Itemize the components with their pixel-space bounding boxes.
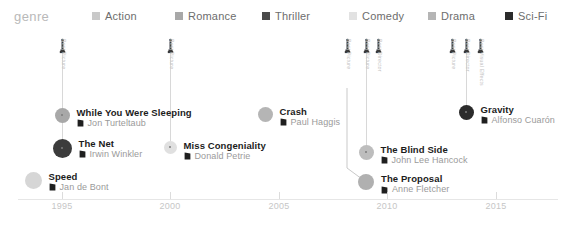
legend-item-action[interactable]: Action (92, 10, 137, 22)
film-director-row: Jon Turteltaub (77, 118, 192, 129)
legend-title: genre (14, 9, 49, 24)
award-label: Best Picture (61, 39, 67, 69)
film-entry[interactable]: Miss CongenialityDonald Petrie (164, 141, 266, 162)
movie-timeline-chart: genre ActionRomanceThrillerComedyDramaSc… (0, 0, 572, 226)
award-marker[interactable]: Best Director (375, 38, 382, 54)
award-marker[interactable]: Best Picture (363, 38, 370, 54)
award-marker[interactable]: Best Picture (59, 38, 66, 54)
film-text-block: GravityAlfonso Cuarón (481, 104, 555, 126)
legend-item-label: Thriller (275, 10, 310, 22)
film-director-name: Jon Turteltaub (88, 118, 146, 129)
award-marker[interactable]: Best Director (463, 38, 470, 54)
legend-item-label: Romance (188, 10, 236, 22)
director-chair-icon (77, 119, 84, 127)
film-director-row: Paul Haggis (280, 117, 341, 128)
film-text-block: Miss CongenialityDonald Petrie (184, 140, 266, 162)
film-director-row: John Lee Hancock (381, 155, 468, 166)
film-genre-dot[interactable] (25, 172, 42, 189)
film-entry[interactable]: The ProposalAnne Fletcher (358, 174, 449, 195)
film-director-name: Alfonso Cuarón (492, 115, 555, 126)
film-entry[interactable]: SpeedJan de Bont (25, 172, 109, 193)
film-entry[interactable]: GravityAlfonso Cuarón (459, 105, 555, 126)
film-director-name: John Lee Hancock (392, 155, 468, 166)
film-director-name: Donald Petrie (195, 151, 251, 162)
legend-item-label: Comedy (362, 10, 404, 22)
award-marker[interactable]: Best Picture (344, 38, 351, 54)
film-entry[interactable]: While You Were SleepingJon Turteltaub (55, 108, 192, 129)
director-chair-icon (79, 150, 86, 158)
film-director-row: Irwin Winkler (79, 149, 143, 160)
legend-swatch-icon (428, 12, 436, 20)
axis-tick-label: 2015 (485, 201, 506, 211)
dot-center-marker (61, 114, 63, 116)
film-director-row: Alfonso Cuarón (481, 115, 555, 126)
award-label: Best Director (377, 39, 383, 72)
film-director-name: Paul Haggis (291, 117, 341, 128)
film-genre-dot[interactable] (459, 105, 474, 120)
legend-item-thriller[interactable]: Thriller (262, 10, 310, 22)
award-label: Best Picture (169, 39, 175, 69)
legend-item-drama[interactable]: Drama (428, 10, 475, 22)
axis-tick-label: 2010 (376, 201, 397, 211)
film-title: The Net (79, 138, 143, 149)
film-director-row: Jan de Bont (49, 182, 109, 193)
film-title: The Blind Side (381, 144, 468, 155)
film-genre-dot[interactable] (164, 141, 177, 154)
film-text-block: The Blind SideJohn Lee Hancock (381, 144, 468, 166)
film-text-block: CrashPaul Haggis (280, 106, 341, 128)
film-director-row: Donald Petrie (184, 151, 266, 162)
axis-tick-label: 2000 (159, 201, 180, 211)
legend-item-romance[interactable]: Romance (175, 10, 236, 22)
film-entry[interactable]: The Blind SideJohn Lee Hancock (359, 145, 468, 166)
axis-tick-mark (279, 192, 280, 199)
legend-swatch-icon (505, 12, 513, 20)
film-director-name: Anne Fletcher (392, 184, 449, 195)
film-entry[interactable]: The NetIrwin Winkler (53, 139, 143, 160)
film-title: Gravity (481, 104, 555, 115)
film-text-block: SpeedJan de Bont (49, 171, 109, 193)
film-text-block: The ProposalAnne Fletcher (381, 173, 449, 195)
legend-swatch-icon (349, 12, 357, 20)
legend-item-label: Sci-Fi (518, 10, 547, 22)
award-label: Best Picture (346, 39, 352, 69)
award-marker[interactable]: Best Picture (449, 38, 456, 54)
director-chair-icon (481, 116, 488, 124)
film-genre-dot[interactable] (358, 174, 374, 190)
axis-tick-mark (170, 192, 171, 199)
axis-tick-mark (387, 192, 388, 199)
film-genre-dot[interactable] (53, 139, 72, 158)
award-marker[interactable]: Best Visual Effects (477, 38, 484, 54)
director-chair-icon (49, 183, 56, 191)
film-genre-dot[interactable] (55, 108, 70, 123)
axis-tick-mark (496, 192, 497, 199)
legend-item-label: Action (105, 10, 137, 22)
award-label: Best Visual Effects (479, 39, 485, 86)
dot-center-marker (365, 151, 367, 153)
film-director-name: Irwin Winkler (90, 149, 143, 160)
legend-item-label: Drama (441, 10, 475, 22)
film-title: The Proposal (381, 173, 449, 184)
axis-tick-label: 2005 (268, 201, 289, 211)
film-title: Speed (49, 171, 109, 182)
film-text-block: The NetIrwin Winkler (79, 138, 143, 160)
film-director-name: Jan de Bont (60, 182, 109, 193)
film-title: Crash (280, 106, 341, 117)
film-title: Miss Congeniality (184, 140, 266, 151)
legend-item-comedy[interactable]: Comedy (349, 10, 404, 22)
genre-legend: genre ActionRomanceThrillerComedyDramaSc… (0, 8, 572, 28)
film-genre-dot[interactable] (258, 107, 273, 122)
dot-center-marker (169, 146, 171, 148)
award-label: Best Director (465, 39, 471, 72)
film-text-block: While You Were SleepingJon Turteltaub (77, 107, 192, 129)
film-entry[interactable]: CrashPaul Haggis (258, 107, 341, 128)
legend-item-sci-fi[interactable]: Sci-Fi (505, 10, 547, 22)
award-label: Best Picture (451, 39, 457, 69)
film-title: While You Were Sleeping (77, 107, 192, 118)
director-chair-icon (184, 152, 191, 160)
film-director-row: Anne Fletcher (381, 184, 449, 195)
award-marker[interactable]: Best Picture (167, 38, 174, 54)
axis-tick-label: 1995 (51, 201, 72, 211)
axis-line (18, 199, 558, 200)
film-genre-dot[interactable] (359, 145, 374, 160)
legend-swatch-icon (92, 12, 100, 20)
